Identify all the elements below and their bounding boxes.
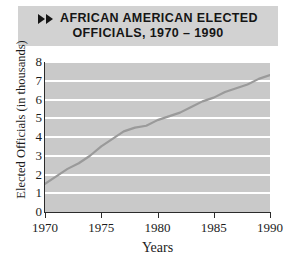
x-axis-tick	[214, 213, 215, 218]
data-series-line	[45, 62, 270, 212]
double-right-arrow-icon	[38, 14, 53, 24]
x-axis-tick-label: 1990	[247, 220, 292, 236]
x-axis-tick	[101, 213, 102, 218]
x-axis-tick	[270, 213, 271, 218]
x-axis-tick-label: 1975	[78, 220, 124, 236]
y-axis-line	[44, 62, 45, 213]
x-axis-tick-label: 1980	[135, 220, 181, 236]
chart-title-banner: AFRICAN AMERICAN ELECTED OFFICIALS, 1970…	[18, 6, 278, 46]
x-axis-tick	[158, 213, 159, 218]
x-axis-tick-label: 1970	[22, 220, 68, 236]
y-axis-tick-label: 0	[4, 205, 42, 218]
x-axis-tick	[45, 213, 46, 218]
chart-title-text: AFRICAN AMERICAN ELECTED OFFICIALS, 1970…	[38, 11, 258, 41]
x-axis-title: Years	[45, 240, 270, 256]
chart-title-line2: OFFICIALS, 1970 – 1990	[38, 26, 258, 41]
y-axis-title: Elected Officials (in thousands)	[14, 35, 29, 205]
x-axis-tick-label: 1985	[191, 220, 237, 236]
plot-area	[45, 62, 270, 212]
chart-title-line1: AFRICAN AMERICAN ELECTED	[60, 11, 258, 26]
line-chart: 012345678 19701975198019851990 Elected O…	[0, 50, 292, 277]
